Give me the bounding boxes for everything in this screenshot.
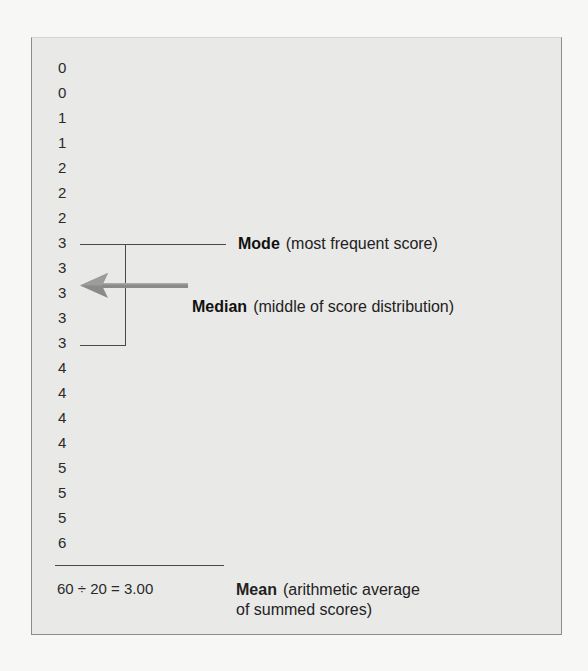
mean-label: Mean(arithmetic average of summed scores… (236, 580, 436, 620)
median-term: Median (192, 298, 247, 315)
mode-label: Mode(most frequent score) (238, 234, 438, 254)
score-item: 5 (58, 459, 78, 477)
score-item: 0 (58, 84, 78, 102)
score-item: 3 (58, 284, 78, 302)
score-item: 0 (58, 59, 78, 77)
median-description: (middle of score distribution) (253, 298, 454, 315)
score-item: 5 (58, 509, 78, 527)
sum-line (55, 565, 224, 566)
score-item: 3 (58, 334, 78, 352)
score-item: 4 (58, 384, 78, 402)
score-item: 1 (58, 109, 78, 127)
mean-formula: 60 ÷ 20 = 3.00 (57, 580, 153, 598)
score-item: 6 (58, 534, 78, 552)
score-item: 2 (58, 159, 78, 177)
score-item: 3 (58, 309, 78, 327)
score-item: 3 (58, 234, 78, 252)
score-item: 4 (58, 434, 78, 452)
score-item: 1 (58, 134, 78, 152)
score-item: 2 (58, 184, 78, 202)
diagram-panel (31, 37, 562, 635)
score-item: 4 (58, 359, 78, 377)
score-item: 4 (58, 409, 78, 427)
median-label: Median(middle of score distribution) (192, 297, 454, 317)
mode-description: (most frequent score) (286, 235, 438, 252)
score-item: 3 (58, 259, 78, 277)
bracket-bottom-line (80, 345, 126, 346)
score-item: 2 (58, 209, 78, 227)
mean-term: Mean (236, 581, 277, 598)
score-item: 5 (58, 484, 78, 502)
mode-term: Mode (238, 235, 280, 252)
mode-leader-line (80, 244, 226, 245)
left-arrow-icon (80, 273, 188, 299)
